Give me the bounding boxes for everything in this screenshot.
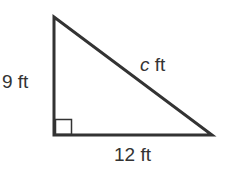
horizontal-leg-text: 12 ft (114, 144, 151, 165)
hypotenuse-variable: c (140, 54, 150, 75)
horizontal-leg-label: 12 ft (114, 145, 151, 164)
triangle-figure (0, 0, 226, 182)
hypotenuse-label: c ft (140, 55, 165, 74)
hypotenuse-unit: ft (155, 54, 166, 75)
right-triangle (54, 17, 212, 135)
right-angle-marker (56, 120, 72, 135)
vertical-leg-text: 9 ft (2, 71, 28, 92)
vertical-leg-label: 9 ft (2, 72, 28, 91)
